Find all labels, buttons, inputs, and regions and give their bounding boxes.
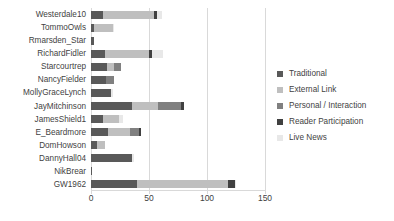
bar-segment[interactable] <box>107 63 114 71</box>
category-label: NancyFielder <box>0 75 86 84</box>
x-axis-line <box>91 190 265 191</box>
legend-swatch-icon <box>277 71 283 77</box>
category-label: Westerdale10 <box>0 10 86 19</box>
bar-row[interactable] <box>91 115 123 123</box>
bar-segment[interactable] <box>130 128 138 136</box>
bar-row[interactable] <box>91 180 236 188</box>
bar-chart: Westerdale10TommoOwlsRmarsden_StarRichar… <box>0 0 394 221</box>
gridline-0 <box>91 8 92 191</box>
bar-segment[interactable] <box>105 50 149 58</box>
legend-item[interactable]: External Link <box>277 82 389 98</box>
bar-segment[interactable] <box>181 102 183 110</box>
bar-row[interactable] <box>91 63 121 71</box>
category-label: NikBrear <box>0 167 86 176</box>
bar-segment[interactable] <box>91 37 94 45</box>
bar-segment[interactable] <box>91 50 105 58</box>
bar-row[interactable] <box>91 76 114 84</box>
bar-segment[interactable] <box>152 50 162 58</box>
bar-segment[interactable] <box>91 89 111 97</box>
x-tick-label: 50 <box>144 193 153 203</box>
bar-segment[interactable] <box>103 11 154 19</box>
legend-label: Traditional <box>289 66 327 82</box>
bar-segment[interactable] <box>91 102 132 110</box>
bar-segment[interactable] <box>91 63 107 71</box>
x-tick-label: 150 <box>258 193 272 203</box>
x-tick-label: 0 <box>89 193 94 203</box>
bar-segment[interactable] <box>114 63 121 71</box>
bar-segment[interactable] <box>103 115 119 123</box>
tick-mark-50 <box>149 191 150 194</box>
plot-area <box>91 8 265 191</box>
bar-row[interactable] <box>91 37 94 45</box>
gridline-100 <box>207 8 208 191</box>
bar-segment[interactable] <box>91 128 108 136</box>
bar-segment[interactable] <box>97 141 105 149</box>
legend-swatch-icon <box>277 119 283 125</box>
category-label: DannyHall04 <box>0 154 86 163</box>
category-label: DomHowson <box>0 141 86 150</box>
bar-row[interactable] <box>91 128 141 136</box>
bar-segment[interactable] <box>91 115 103 123</box>
bar-segment[interactable] <box>157 11 162 19</box>
category-label: E_Beardmore <box>0 128 86 137</box>
bar-segment[interactable] <box>94 24 113 32</box>
gridline-150 <box>265 8 266 191</box>
bar-row[interactable] <box>91 154 134 162</box>
bar-segment[interactable] <box>119 115 124 123</box>
legend-swatch-icon <box>277 103 283 109</box>
bar-row[interactable] <box>91 141 105 149</box>
bar-segment[interactable] <box>113 24 114 32</box>
category-label: RichardFidler <box>0 49 86 58</box>
legend-swatch-icon <box>277 87 283 93</box>
tick-mark-150 <box>265 191 266 194</box>
tick-mark-0 <box>91 191 92 194</box>
legend-label: Reader Participation <box>289 114 363 130</box>
y-axis-category-labels: Westerdale10TommoOwlsRmarsden_StarRichar… <box>0 8 86 191</box>
category-label: JayMitchinson <box>0 102 86 111</box>
legend-item[interactable]: Live News <box>277 130 389 146</box>
bar-segment[interactable] <box>91 180 137 188</box>
legend-item[interactable]: Reader Participation <box>277 114 389 130</box>
bar-segment[interactable] <box>139 128 141 136</box>
legend-item[interactable]: Personal / Interaction <box>277 98 389 114</box>
x-axis-tick-labels: 050100150 <box>0 193 394 207</box>
category-label: Rmarsden_Star <box>0 36 86 45</box>
category-label: GW1962 <box>0 180 86 189</box>
x-tick-label: 100 <box>200 193 214 203</box>
category-label: JamesShield1 <box>0 115 86 124</box>
bar-segment[interactable] <box>111 89 113 97</box>
bar-row[interactable] <box>91 167 92 175</box>
bar-segment[interactable] <box>158 102 181 110</box>
bar-row[interactable] <box>91 89 113 97</box>
bar-segment[interactable] <box>108 128 130 136</box>
chart-legend: TraditionalExternal LinkPersonal / Inter… <box>277 66 389 146</box>
bar-row[interactable] <box>91 11 162 19</box>
bar-segment[interactable] <box>91 11 103 19</box>
category-label: MollyGraceLynch <box>0 88 86 97</box>
bar-segment[interactable] <box>235 180 236 188</box>
bar-row[interactable] <box>91 102 184 110</box>
bar-segment[interactable] <box>137 180 227 188</box>
bar-segment[interactable] <box>91 167 92 175</box>
bar-segment[interactable] <box>91 154 132 162</box>
legend-label: Live News <box>289 130 327 146</box>
bar-segment[interactable] <box>91 76 106 84</box>
category-label: TommoOwls <box>0 23 86 32</box>
tick-mark-100 <box>207 191 208 194</box>
legend-item[interactable]: Traditional <box>277 66 389 82</box>
bar-segment[interactable] <box>132 154 134 162</box>
bar-row[interactable] <box>91 24 114 32</box>
legend-swatch-icon <box>277 135 283 141</box>
bar-segment[interactable] <box>132 102 159 110</box>
category-label: Starcourtrep <box>0 62 86 71</box>
legend-label: Personal / Interaction <box>289 98 366 114</box>
gridline-50 <box>149 8 150 191</box>
bar-row[interactable] <box>91 50 163 58</box>
legend-label: External Link <box>289 82 336 98</box>
bar-segment[interactable] <box>228 180 235 188</box>
bar-segment[interactable] <box>106 76 114 84</box>
